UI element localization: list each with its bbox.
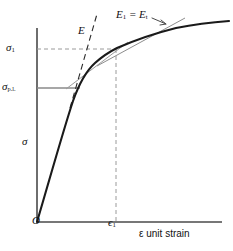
origin-label: O — [32, 215, 40, 226]
tangent-modulus-line — [97, 18, 185, 66]
proportional-limit-axis-label: σp.l. — [2, 81, 16, 93]
epsilon1-tick-label: ϵ1 — [108, 217, 116, 229]
tangent-modulus-label: E1 = Et — [116, 9, 148, 21]
y-axis-label: σ — [22, 136, 27, 147]
modulus-of-elasticity-label: E — [78, 25, 85, 36]
sigma1-axis-label: σ1 — [6, 42, 15, 54]
stress-strain-curve — [37, 21, 229, 222]
tangent-modulus-arrow-icon — [152, 18, 166, 25]
x-axis-label: ε unit strain — [139, 229, 190, 239]
